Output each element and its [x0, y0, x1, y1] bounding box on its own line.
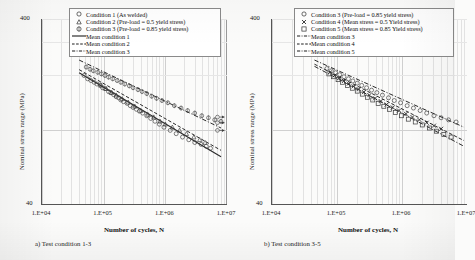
data-point — [411, 106, 415, 110]
series-markers — [99, 83, 207, 144]
x-tick-label: 1.E+06 — [392, 209, 411, 216]
series-markers — [325, 67, 458, 124]
x-axis-title-b: Number of cycles, N — [338, 226, 398, 234]
x-tick-label: 1.E+07 — [457, 209, 475, 216]
legend-label: Mean condition 5 — [311, 48, 355, 55]
data-point — [375, 91, 379, 95]
legend-item: Condition 2 (Pre-load = 0.5 yield stress… — [72, 18, 217, 25]
legend-label: Mean condition 3 — [311, 33, 355, 40]
legend-label: Condition 4 (Mean stress = 0.5 Yield str… — [311, 18, 420, 25]
data-point — [406, 117, 410, 121]
data-point — [325, 67, 329, 71]
legend-item: Condition 3 (Pre-load = 0.85 yield stres… — [72, 25, 217, 32]
dashdot-line-icon — [297, 47, 311, 55]
x-tickmark — [42, 204, 43, 205]
series-markers — [327, 72, 453, 139]
legend-label: Condition 3 (Pre-load = 0.85 yield stres… — [311, 11, 413, 18]
data-point — [172, 103, 176, 108]
x-tick-label: 1.E+06 — [155, 209, 174, 216]
x-tickmark — [104, 204, 105, 205]
legend-item: Condition 5 (Mean stress = 0.85 Yield st… — [297, 25, 450, 32]
legend-label: Mean condition 1 — [86, 33, 130, 40]
legend-marker — [297, 47, 311, 54]
data-point — [100, 71, 104, 76]
data-point — [193, 111, 197, 116]
panel-caption-a: a) Test condition 1-3 — [35, 240, 91, 247]
legend-label: Mean condition 4 — [311, 40, 355, 47]
runout-arrow-icon — [216, 128, 225, 132]
x-axis-title-a: Number of cycles, N — [104, 226, 164, 234]
data-point — [96, 70, 100, 75]
data-point — [392, 99, 396, 103]
data-point — [119, 80, 123, 85]
data-point — [418, 109, 422, 113]
dashdot-line-icon — [72, 47, 86, 55]
trendline — [314, 60, 464, 127]
x-tickmark — [272, 204, 273, 205]
data-point — [380, 93, 384, 97]
data-point — [399, 114, 403, 118]
data-point — [432, 114, 436, 118]
y-axis-max-label-b: 400 — [250, 14, 260, 21]
data-point — [200, 113, 204, 118]
data-point — [342, 75, 346, 79]
legend-label: Condition 5 (Mean stress = 0.85 Yield st… — [311, 25, 423, 32]
y-axis-min-label-a: 40 — [26, 199, 33, 206]
data-point — [425, 111, 429, 115]
legend-label: Condition 3 (Pre-load = 0.85 yield stres… — [86, 25, 188, 32]
x-tick-label: 1.E+05 — [327, 209, 346, 216]
data-point — [111, 76, 115, 81]
chart-panel-a: 400 40 Nominal stress range (MPa) Number… — [0, 0, 228, 260]
data-point — [131, 85, 135, 90]
legend-label: Condition 2 (Pre-load = 0.5 yield stress… — [86, 18, 185, 25]
legend-item: Mean condition 3 — [72, 47, 217, 54]
data-point — [399, 101, 403, 105]
y-axis-title-b: Nominal stress range (MPa) — [248, 93, 255, 170]
data-point — [103, 73, 107, 78]
data-point — [405, 104, 409, 108]
data-point — [123, 82, 127, 87]
x-tick-label: 1.E+04 — [262, 209, 281, 216]
data-point — [115, 78, 119, 83]
data-point — [155, 96, 159, 101]
legend-b: Condition 3 (Pre-load = 0.85 yield stres… — [294, 8, 454, 57]
data-point — [365, 86, 369, 90]
series-markers — [328, 70, 443, 130]
data-point — [140, 89, 144, 94]
data-point — [127, 83, 131, 88]
trendline — [79, 60, 221, 128]
data-point — [84, 65, 88, 70]
data-point — [136, 87, 140, 92]
data-point — [449, 135, 453, 139]
legend-item: Mean condition 4 — [297, 40, 450, 47]
y-axis-max-label-a: 400 — [20, 14, 30, 21]
legend-item: Condition 4 (Mean stress = 0.5 Yield str… — [297, 18, 450, 25]
data-point — [370, 88, 374, 92]
runout-arrow-icon — [216, 115, 225, 119]
legend-a: Condition 1 (As welded)Condition 2 (Pre-… — [69, 8, 221, 57]
x-tickmark — [337, 204, 338, 205]
data-point — [393, 110, 397, 114]
legend-marker — [72, 47, 86, 54]
data-point — [346, 77, 350, 81]
data-point — [207, 115, 211, 120]
legend-item: Condition 1 (As welded) — [72, 11, 217, 18]
legend-label: Mean condition 2 — [86, 40, 130, 47]
data-point — [107, 75, 111, 80]
data-point — [166, 100, 170, 105]
x-tickmark — [165, 204, 166, 205]
data-point — [417, 118, 421, 122]
legend-label: Condition 1 (As welded) — [86, 11, 147, 18]
data-point — [153, 119, 157, 123]
data-point — [192, 135, 196, 139]
data-point — [355, 81, 359, 85]
x-tickmark — [402, 204, 403, 205]
legend-item: Mean condition 2 — [72, 40, 217, 47]
data-point — [187, 138, 191, 142]
legend-item: Condition 3 (Pre-load = 0.85 yield stres… — [297, 11, 450, 18]
x-tick-label: 1.E+04 — [32, 209, 51, 216]
legend-label: Mean condition 3 — [86, 48, 130, 55]
chart-panel-b: 400 40 Nominal stress range (MPa) Number… — [228, 0, 455, 260]
data-point — [91, 68, 95, 73]
